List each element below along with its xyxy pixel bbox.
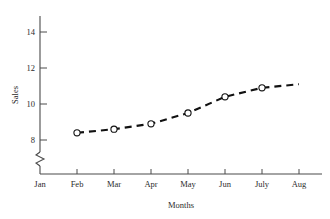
x-axis-title: Months (168, 200, 194, 210)
data-point-apr (148, 121, 154, 127)
x-tick-label-jun: Jun (219, 179, 232, 189)
data-point-july (259, 85, 265, 91)
data-point-may (185, 110, 191, 116)
y-tick-label-8: 8 (31, 135, 35, 145)
data-point-feb (74, 130, 80, 136)
x-tick-label-aug: Aug (292, 179, 307, 189)
y-tick-label-12: 12 (27, 63, 36, 73)
data-point-mar (111, 126, 117, 132)
x-tick-label-may: May (180, 179, 196, 189)
x-tick-label-feb: Feb (71, 179, 84, 189)
x-tick-label-apr: Apr (144, 179, 157, 189)
sales-series-markers (74, 85, 265, 136)
x-tick-label-mar: Mar (107, 179, 121, 189)
sales-series-line (77, 84, 299, 133)
chart-canvas: 14 12 10 8 Jan Feb Mar Apr May Jun July … (0, 0, 330, 219)
y-axis-break-icon (36, 152, 44, 166)
y-axis-title: Sales (10, 86, 20, 104)
x-tick-label-jan: Jan (34, 179, 46, 189)
y-tick-label-14: 14 (27, 27, 36, 37)
sales-line-chart: 14 12 10 8 Jan Feb Mar Apr May Jun July … (0, 0, 330, 219)
data-point-jun (222, 94, 228, 100)
x-tick-label-july: July (255, 179, 270, 189)
y-tick-label-10: 10 (27, 99, 36, 109)
